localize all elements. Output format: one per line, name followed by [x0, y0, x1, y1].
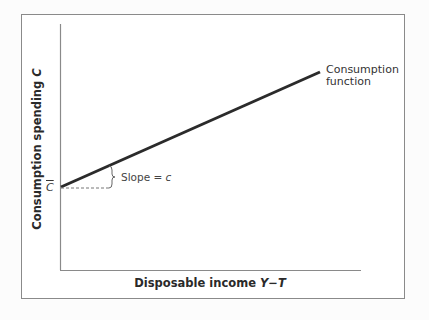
slope-brace-icon [109, 166, 115, 188]
intercept-label: C [46, 181, 54, 194]
x-axis-label: Disposable income Y−T [134, 276, 286, 290]
y-axis-label: Consumption spending C [30, 68, 44, 229]
slope-label: Slope = c [121, 171, 171, 183]
diagram-canvas [0, 0, 429, 320]
consumption-function-line [61, 72, 320, 187]
consumption-function-label: Consumptionfunction [326, 64, 399, 88]
